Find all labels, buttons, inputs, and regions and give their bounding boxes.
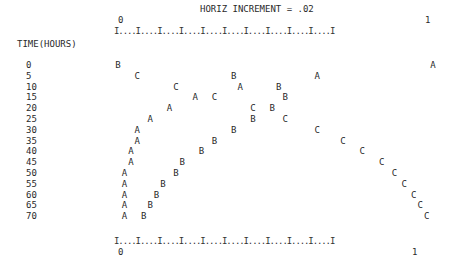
y-tick-label: 25: [26, 114, 37, 124]
point-b: B: [178, 157, 186, 167]
point-b: B: [159, 179, 167, 189]
point-a: A: [165, 103, 173, 113]
x-tick-one-bottom: 1: [412, 247, 417, 257]
point-a: A: [127, 146, 135, 156]
point-b: B: [198, 146, 206, 156]
y-tick-label: 65: [26, 200, 37, 210]
point-b: B: [230, 71, 238, 81]
y-tick-label: 60: [26, 190, 37, 200]
point-c: C: [339, 136, 347, 146]
point-a: A: [120, 179, 128, 189]
point-b: B: [275, 82, 283, 92]
point-c: C: [133, 71, 141, 81]
point-a: A: [127, 157, 135, 167]
y-tick-label: 15: [26, 92, 37, 102]
point-b: B: [281, 92, 289, 102]
y-tick-label: 5: [26, 71, 31, 81]
point-b: B: [230, 125, 238, 135]
point-a: A: [133, 136, 141, 146]
x-tick-zero-top: 0: [118, 15, 123, 25]
x-tick-zero-bottom: 0: [118, 247, 123, 257]
x-axis-bottom: I....I....I....I....I....I....I....I....…: [114, 236, 334, 246]
y-tick-label: 10: [26, 82, 37, 92]
x-axis-top: I....I....I....I....I....I....I....I....…: [114, 26, 334, 36]
point-a: A: [236, 82, 244, 92]
plot-title: HORIZ INCREMENT = .02: [200, 4, 314, 14]
point-a: A: [120, 190, 128, 200]
point-a: A: [133, 125, 141, 135]
point-c: C: [358, 146, 366, 156]
y-tick-label: 50: [26, 168, 37, 178]
point-c: C: [416, 200, 424, 210]
point-c: C: [410, 190, 418, 200]
point-a: A: [120, 211, 128, 221]
y-tick-label: 70: [26, 211, 37, 221]
point-a: A: [120, 200, 128, 210]
point-c: C: [400, 179, 408, 189]
y-tick-label: 30: [26, 125, 37, 135]
point-a: A: [313, 71, 321, 81]
y-tick-label: 0: [26, 60, 31, 70]
point-b: B: [210, 136, 218, 146]
point-c: C: [378, 157, 386, 167]
point-c: C: [249, 103, 257, 113]
point-c: C: [172, 82, 180, 92]
point-b: B: [268, 103, 276, 113]
x-tick-one-top: 1: [425, 15, 430, 25]
y-tick-label: 40: [26, 146, 37, 156]
point-b: B: [153, 190, 161, 200]
point-c: C: [390, 168, 398, 178]
y-tick-label: 20: [26, 103, 37, 113]
point-b: B: [172, 168, 180, 178]
point-b: B: [140, 211, 148, 221]
point-c: C: [313, 125, 321, 135]
point-c: C: [423, 211, 431, 221]
point-b: B: [249, 114, 257, 124]
point-a: A: [120, 168, 128, 178]
point-b: B: [114, 60, 122, 70]
point-a: A: [191, 92, 199, 102]
point-a: A: [146, 114, 154, 124]
point-a: A: [429, 60, 437, 70]
y-tick-label: 35: [26, 136, 37, 146]
y-tick-label: 55: [26, 179, 37, 189]
point-c: C: [281, 114, 289, 124]
y-axis-label: TIME(HOURS): [17, 39, 77, 49]
point-b: B: [146, 200, 154, 210]
point-c: C: [210, 92, 218, 102]
y-tick-label: 45: [26, 157, 37, 167]
